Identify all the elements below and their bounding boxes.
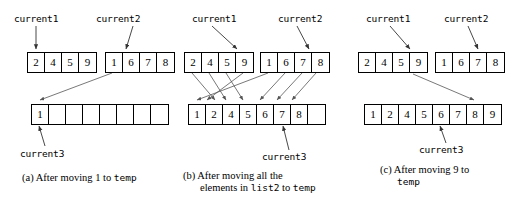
cell-list2-c-3: 8: [487, 53, 504, 72]
caption-a-mono: temp: [114, 172, 137, 183]
cell-temp-b-4: 6: [257, 105, 274, 124]
cell-list1-a-2: 5: [62, 53, 79, 72]
caption-b-mono-list2: list2: [251, 182, 280, 193]
cell-list1-b-2: 5: [219, 53, 236, 72]
cell-temp-b-0: 1: [189, 105, 206, 124]
cell-list1-a-0: 2: [28, 53, 45, 72]
cell-list1-a-1: 4: [45, 53, 62, 72]
label-current2-b: current2: [278, 14, 322, 24]
caption-b-line2: elements in list2 to temp: [183, 182, 316, 194]
cell-list2-b-3: 8: [312, 53, 329, 72]
cell-temp-c-4: 6: [433, 105, 450, 124]
caption-b-line2-a: elements in: [200, 182, 251, 193]
cell-temp-c-3: 5: [416, 105, 433, 124]
caption-a: (a) After moving 1 to temp: [22, 172, 137, 184]
array-temp-c: 1 2 4 5 6 7 8 9: [364, 104, 502, 125]
panel-c: current1 current2 2 4 5 9 1 6 7 8 1 2 4 …: [340, 0, 503, 205]
label-current3-b: current3: [262, 152, 306, 162]
cell-list1-b-0: 2: [185, 53, 202, 72]
array-temp-b: 1 2 4 5 6 7 8: [188, 104, 326, 125]
array-list2-b: 1 6 7 8: [260, 52, 330, 73]
cell-temp-c-0: 1: [365, 105, 382, 124]
cell-temp-b-1: 2: [206, 105, 223, 124]
caption-b-line2-b: to: [279, 182, 292, 193]
label-current3-a: current3: [20, 149, 64, 159]
cell-temp-c-5: 7: [450, 105, 467, 124]
cell-list1-c-0: 2: [359, 53, 376, 72]
cell-temp-c-7: 9: [484, 105, 501, 124]
label-current3-c: current3: [419, 145, 463, 155]
cell-temp-a-7: [151, 105, 168, 124]
cell-temp-b-6: 8: [291, 105, 308, 124]
cell-temp-a-4: [100, 105, 117, 124]
cell-temp-b-2: 4: [223, 105, 240, 124]
cell-list1-b-3: 9: [236, 53, 253, 72]
cell-temp-c-1: 2: [382, 105, 399, 124]
cell-list2-c-2: 7: [470, 53, 487, 72]
caption-b: (b) After moving all the elements in lis…: [183, 170, 316, 194]
cell-list1-b-1: 4: [202, 53, 219, 72]
caption-c: (c) After moving 9 to temp: [380, 164, 469, 188]
label-current1-b: current1: [192, 14, 236, 24]
caption-c-text: (c) After moving 9 to: [380, 164, 469, 175]
cell-temp-b-7: [308, 105, 325, 124]
cell-list2-c-0: 1: [436, 53, 453, 72]
cell-list2-b-0: 1: [261, 53, 278, 72]
cell-temp-c-6: 8: [467, 105, 484, 124]
cell-temp-a-0: 1: [32, 105, 49, 124]
cell-list2-a-0: 1: [106, 53, 123, 72]
caption-c-line2: temp: [380, 176, 469, 188]
caption-b-mono-temp: temp: [293, 182, 316, 193]
cell-temp-b-3: 5: [240, 105, 257, 124]
cell-list2-b-2: 7: [295, 53, 312, 72]
cell-list2-c-1: 6: [453, 53, 470, 72]
label-current1-c: current1: [366, 14, 410, 24]
cell-list1-c-3: 9: [410, 53, 427, 72]
label-current1-a: current1: [14, 14, 58, 24]
array-list1-b: 2 4 5 9: [184, 52, 254, 73]
cell-list1-c-2: 5: [393, 53, 410, 72]
label-current2-c: current2: [444, 14, 488, 24]
label-current2-a: current2: [96, 14, 140, 24]
array-list1-a: 2 4 5 9: [27, 52, 97, 73]
panel-a: current1 current2 2 4 5 9 1 6 7 8 1 curr…: [0, 0, 168, 205]
array-list2-a: 1 6 7 8: [105, 52, 175, 73]
cell-temp-a-3: [83, 105, 100, 124]
array-list2-c: 1 6 7 8: [435, 52, 505, 73]
cell-temp-a-2: [66, 105, 83, 124]
cell-temp-a-5: [117, 105, 134, 124]
cell-list2-a-2: 7: [140, 53, 157, 72]
cell-list1-c-1: 4: [376, 53, 393, 72]
cell-temp-c-2: 4: [399, 105, 416, 124]
cell-list2-b-1: 6: [278, 53, 295, 72]
array-temp-a: 1: [31, 104, 169, 125]
panel-b: current1 current2 2 4 5 9 1 6 7 8 1 2 4 …: [168, 0, 340, 205]
caption-b-text: (b) After moving all the: [183, 170, 283, 181]
caption-a-text: (a) After moving 1 to: [22, 172, 114, 183]
cell-temp-a-1: [49, 105, 66, 124]
caption-c-mono-temp: temp: [397, 176, 420, 187]
cell-temp-a-6: [134, 105, 151, 124]
cell-list1-a-3: 9: [79, 53, 96, 72]
array-list1-c: 2 4 5 9: [358, 52, 428, 73]
cell-temp-b-5: 7: [274, 105, 291, 124]
cell-list2-a-1: 6: [123, 53, 140, 72]
